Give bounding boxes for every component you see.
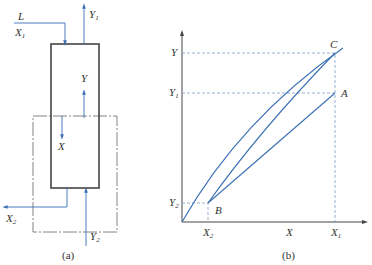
x-label-X2: X2	[202, 226, 214, 240]
label-Y1-outlet: Y1	[89, 8, 99, 22]
label-X2-outlet: X2	[5, 212, 17, 226]
caption-a: (a)	[62, 249, 75, 262]
guide-B	[182, 203, 208, 222]
liquid-outlet-arrow	[5, 188, 67, 207]
x-label-X1: X1	[330, 226, 341, 240]
panel-b: Y Y1 Y2 X2 X X1 C A B (b)	[169, 33, 365, 262]
control-envelope	[33, 116, 117, 232]
operating-line-BA	[208, 93, 335, 203]
point-A-label: A	[340, 87, 348, 99]
label-Y-internal: Y	[81, 72, 89, 84]
diagram-canvas: L X1 Y1 Y X X2 Y2 (a) Y Y	[0, 0, 372, 265]
label-X-internal: X	[57, 140, 66, 152]
label-L: L	[17, 10, 24, 22]
label-Y2-inlet: Y2	[90, 230, 100, 244]
equilibrium-curve	[182, 48, 343, 222]
operating-line-BC	[208, 53, 335, 203]
x-label-X: X	[285, 226, 294, 238]
point-C-label: C	[330, 38, 338, 50]
y-label-Y: Y	[171, 46, 179, 58]
point-B-label: B	[215, 204, 222, 216]
label-X1-inlet: X1	[14, 26, 25, 40]
y-label-Y1: Y1	[169, 86, 179, 100]
caption-b: (b)	[282, 249, 295, 262]
y-label-Y2: Y2	[169, 196, 179, 210]
panel-a: L X1 Y1 Y X X2 Y2 (a)	[5, 6, 117, 262]
